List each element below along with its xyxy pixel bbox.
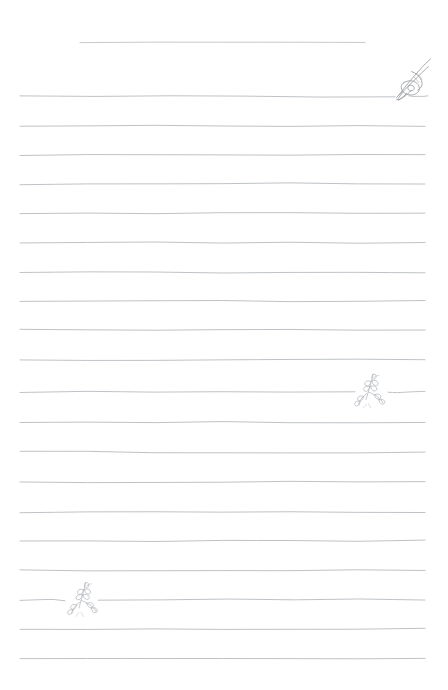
- writing-surface[interactable]: [0, 0, 448, 690]
- notepaper-page: [0, 0, 448, 690]
